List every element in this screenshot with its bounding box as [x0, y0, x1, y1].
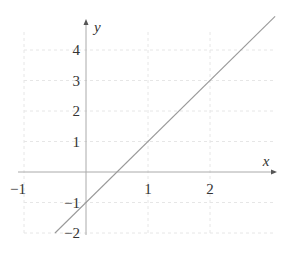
y-tick-label: 2: [73, 103, 81, 119]
x-tick-label: 1: [144, 181, 152, 197]
y-tick-label: −1: [64, 195, 80, 211]
series-line: [55, 16, 275, 233]
y-tick-label: 1: [73, 134, 81, 150]
x-tick-label: −1: [10, 181, 26, 197]
data-series: [55, 16, 275, 233]
y-axis-label: y: [92, 19, 101, 35]
x-axis-label: x: [262, 153, 270, 169]
y-axis-arrow-icon: [84, 19, 89, 25]
y-tick-label: 4: [73, 42, 81, 58]
grid: [24, 32, 275, 233]
plot-area: −112−2−11234xy: [0, 0, 289, 255]
x-tick-label: 2: [206, 181, 214, 197]
y-tick-label: 3: [73, 73, 81, 89]
tick-labels: −112−2−11234xy: [10, 19, 270, 241]
y-tick-label: −2: [64, 225, 80, 241]
x-axis-arrow-icon: [271, 170, 277, 175]
